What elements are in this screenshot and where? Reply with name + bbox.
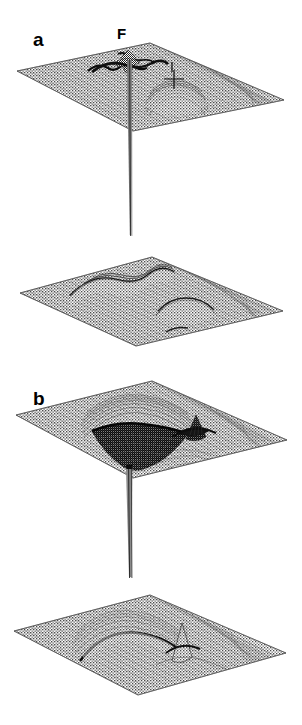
surface-b-lower [14,595,286,695]
panel-b-surfaces [0,365,302,725]
surface-b-lower-plane [14,595,286,695]
surface-a-lower [20,257,283,346]
panel-b: b [0,365,302,725]
figure-root: a F Li [0,0,302,725]
panel-a: a F Li [0,0,302,360]
spike-a [127,60,132,236]
panel-a-svg [0,0,302,360]
surface-a-upper [17,43,284,131]
panel-a-surfaces [0,0,302,360]
spike-b [126,469,133,578]
panel-b-svg [0,365,302,725]
surface-b-upper [16,381,287,479]
